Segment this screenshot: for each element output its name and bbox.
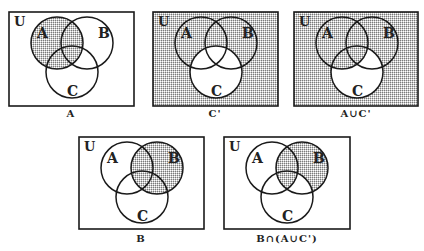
caption-a-union-c-complement: A∪C' <box>339 108 371 119</box>
universe-label: U <box>299 14 311 29</box>
venn-diagram-c-complement: U A B C <box>153 12 278 106</box>
set-b-label: B <box>313 150 325 166</box>
venn-diagram-b-intersect-a-union-c-complement: U A B C <box>224 137 350 229</box>
set-a-label: A <box>180 25 193 41</box>
set-b-label: B <box>168 150 180 166</box>
set-a-label: A <box>106 150 119 166</box>
set-a-label: A <box>251 150 264 166</box>
set-b-label: B <box>383 25 395 41</box>
set-c-label: C <box>211 83 222 99</box>
caption-c-complement: C' <box>208 108 221 119</box>
venn-diagram-b: U A B C <box>79 137 204 229</box>
set-a-label: A <box>36 25 49 41</box>
set-c-label: C <box>352 83 363 99</box>
set-c-label: C <box>137 208 148 224</box>
set-c-label: C <box>282 208 293 224</box>
set-b-label: B <box>242 25 254 41</box>
caption-b: B <box>136 233 145 244</box>
universe-label: U <box>229 139 241 154</box>
caption-a: A <box>66 108 76 119</box>
universe-label: U <box>84 139 96 154</box>
caption-b-intersect-a-union-c-complement: B∩(A∪C') <box>256 233 317 244</box>
universe-label: U <box>14 14 26 29</box>
set-c-label: C <box>67 83 78 99</box>
universe-label: U <box>158 14 170 29</box>
venn-diagram-a: U A B C <box>9 12 134 106</box>
set-b-label: B <box>98 25 110 41</box>
venn-diagram-a-union-c-complement: U A B C <box>294 12 418 106</box>
venn-diagram-figure: U A B C A U A B C C' U A B C A∪C' U A <box>0 0 424 251</box>
set-a-label: A <box>321 25 334 41</box>
